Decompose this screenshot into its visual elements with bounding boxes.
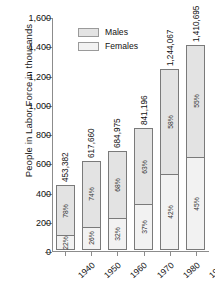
bar-segment-label-males: 68% [114,178,121,191]
bar-segment-label-females: 22% [62,236,69,249]
bar-group[interactable]: 74%617,66026% [82,161,101,251]
legend-swatch-icon [78,28,99,37]
bar-total-label: 453,382 [61,152,70,182]
bar-segment-label-males: 74% [88,187,95,200]
x-tick-label: 1970 [154,260,175,280]
bar-segment-label-males: 55% [192,95,199,108]
bar-segment-females[interactable]: 22% [56,235,75,250]
labor-force-stacked-bar-chart: People in Labor Force in thousands 02004… [0,0,215,289]
bar-segment-females[interactable]: 45% [186,157,205,250]
bar-segment-label-males: 63% [140,160,147,173]
y-axis-line [52,18,53,252]
bar-segment-females[interactable]: 32% [108,218,127,250]
bar-group[interactable]: 63%841,19637% [134,128,153,251]
x-tick-label: 1950 [102,260,123,280]
chart-legend: MalesFemales [78,26,138,54]
bar-segment-males[interactable]: 74%617,660 [82,161,101,228]
bar-segment-label-females: 42% [166,205,173,218]
x-tick-label: 1990 [207,260,215,280]
x-tick-mark [91,251,92,256]
x-tick-mark [196,251,197,256]
y-tick-label: 400 [7,189,51,199]
x-tick-mark [117,251,118,256]
legend-label: Males [105,27,128,37]
bar-group[interactable]: 78%453,38222% [56,185,75,251]
x-tick-label: 1960 [128,260,149,280]
y-tick-label: 600 [7,159,51,169]
bar-segment-males[interactable]: 78%453,382 [56,185,75,237]
bar-segment-females[interactable]: 37% [134,204,153,250]
y-tick-label: 1,000 [7,101,51,111]
x-tick-mark [144,251,145,256]
x-tick-label: 1980 [181,260,202,280]
bar-group[interactable]: 55%1,410,69545% [186,45,205,251]
legend-item[interactable]: Males [78,26,138,38]
bar-segment-label-females: 45% [192,197,199,210]
x-axis-line [52,251,209,252]
x-tick-mark [170,251,171,256]
bar-total-label: 1,410,695 [191,5,200,41]
x-tick-mark [65,251,66,256]
legend-label: Females [105,41,138,51]
y-tick-label: 0 [7,247,51,257]
bar-segment-males[interactable]: 63%841,196 [134,128,153,206]
bar-total-label: 617,660 [87,128,96,158]
legend-item[interactable]: Females [78,40,138,52]
bar-segment-males[interactable]: 68%684,975 [108,151,127,219]
bar-segment-females[interactable]: 42% [160,174,179,250]
y-tick-label: 1,400 [7,42,51,52]
y-tick-label: 800 [7,130,51,140]
bar-total-label: 684,975 [113,118,122,148]
bar-segment-females[interactable]: 26% [82,227,101,250]
bar-total-label: 1,244,067 [165,30,174,66]
bar-group[interactable]: 58%1,244,06742% [160,69,179,251]
y-tick-label: 1,200 [7,72,51,82]
bar-segment-label-males: 58% [166,115,173,128]
y-tick-label: 1,600 [7,13,51,23]
x-tick-label: 1940 [76,260,97,280]
bar-segment-label-females: 32% [114,227,121,240]
bar-segment-label-females: 37% [140,221,147,234]
y-tick-label: 200 [7,218,51,228]
bar-segment-males[interactable]: 55%1,410,695 [186,45,205,158]
bar-group[interactable]: 68%684,97532% [108,151,127,251]
bar-segment-label-females: 26% [88,232,95,245]
bar-segment-label-males: 78% [62,204,69,217]
bar-segment-males[interactable]: 58%1,244,067 [160,69,179,175]
bar-total-label: 841,196 [139,95,148,125]
legend-swatch-icon [78,42,99,51]
